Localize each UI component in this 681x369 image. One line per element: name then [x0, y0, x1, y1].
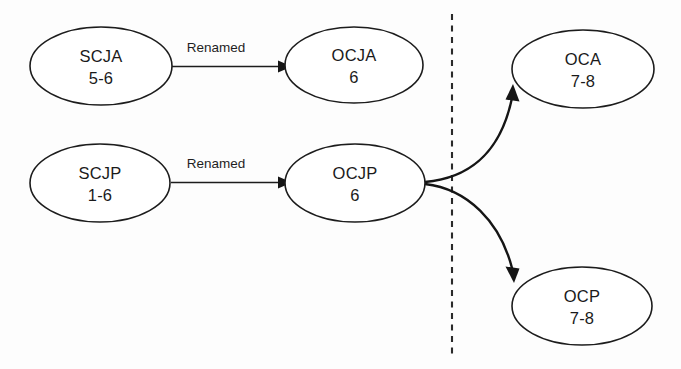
node-shape-oca	[512, 30, 654, 108]
edge-ocjp-to-oca	[425, 84, 520, 182]
node-scjp[interactable]: SCJP 1-6	[30, 144, 170, 222]
edge-scja-to-ocja: Renamed	[172, 40, 292, 73]
node-label-oca-line2: 7-8	[571, 72, 595, 90]
node-label-scjp-line1: SCJP	[79, 164, 122, 182]
node-label-ocja-line1: OCJA	[332, 46, 377, 64]
node-label-ocja-line2: 6	[349, 68, 358, 86]
edge-curve-ocjp-ocp	[425, 184, 512, 268]
node-shape-ocp	[512, 267, 652, 345]
node-scja[interactable]: SCJA 5-6	[30, 27, 172, 105]
node-ocja[interactable]: OCJA 6	[285, 27, 423, 103]
arrow-head-icon-ocjp-oca	[506, 84, 520, 102]
node-label-oca-line1: OCA	[565, 50, 601, 68]
edge-ocjp-to-ocp	[425, 184, 520, 283]
node-shape-ocja	[285, 27, 423, 103]
node-label-ocp-line2: 7-8	[570, 309, 594, 327]
node-label-ocp-line1: OCP	[564, 287, 600, 305]
diagram-canvas: Renamed Renamed SCJA 5-6 OCJA 6	[0, 0, 681, 369]
node-label-ocjp-line2: 6	[350, 186, 359, 204]
node-label-scja-line1: SCJA	[80, 47, 123, 65]
node-label-scja-line2: 5-6	[89, 69, 113, 87]
edge-label-scja-ocja: Renamed	[187, 40, 246, 55]
node-shape-scjp	[30, 144, 170, 222]
edge-label-scjp-ocjp: Renamed	[187, 156, 246, 171]
certification-path-diagram: Renamed Renamed SCJA 5-6 OCJA 6	[0, 0, 681, 369]
edge-scjp-to-ocjp: Renamed	[171, 156, 292, 189]
node-label-ocjp-line1: OCJP	[333, 164, 378, 182]
arrow-head-icon-ocjp-ocp	[506, 267, 520, 284]
node-shape-scja	[30, 27, 172, 105]
node-label-scjp-line2: 1-6	[88, 186, 112, 204]
node-shape-ocjp	[285, 144, 425, 222]
node-ocp[interactable]: OCP 7-8	[512, 267, 652, 345]
node-oca[interactable]: OCA 7-8	[512, 30, 654, 108]
edge-curve-ocjp-oca	[425, 98, 512, 182]
node-ocjp[interactable]: OCJP 6	[285, 144, 425, 222]
